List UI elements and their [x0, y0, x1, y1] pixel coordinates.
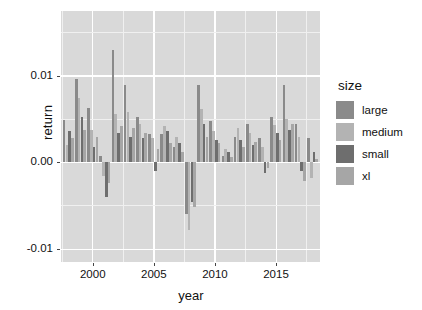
bar	[154, 162, 157, 171]
grid-line-horizontal-minor	[61, 205, 320, 206]
y-tick-label: 0.00	[5, 155, 53, 167]
bar	[279, 140, 282, 163]
x-tick-mark	[93, 263, 94, 266]
bar	[120, 126, 123, 162]
legend-title: size	[338, 78, 420, 93]
y-tick-label: 0.01	[5, 69, 53, 81]
bar	[310, 162, 313, 178]
legend-item-small[interactable]: small	[336, 143, 420, 164]
bar	[267, 162, 270, 167]
legend-item-large[interactable]: large	[336, 99, 420, 120]
grid-line-horizontal	[61, 249, 320, 250]
grid-line-vertical	[153, 11, 154, 262]
x-tick-mark	[154, 263, 155, 266]
bar	[169, 143, 172, 162]
grid-line-vertical-minor	[306, 11, 307, 262]
bar	[307, 138, 310, 162]
bar	[83, 130, 86, 163]
x-tick-mark	[215, 263, 216, 266]
bar	[71, 138, 74, 162]
legend-label: small	[362, 148, 389, 160]
legend: size largemediumsmallxl	[336, 78, 420, 187]
bar	[132, 128, 135, 163]
bar	[193, 162, 196, 207]
y-tick-label: -0.01	[5, 242, 53, 254]
grid-line-horizontal-minor	[61, 32, 320, 33]
bar	[291, 124, 294, 162]
bar	[96, 137, 99, 163]
bar	[315, 159, 318, 162]
chart-root: return -0.010.000.01 2000200520102015 ye…	[0, 0, 422, 310]
legend-item-xl[interactable]: xl	[336, 165, 420, 186]
legend-label: xl	[362, 170, 370, 182]
plot-panel	[61, 11, 320, 262]
bar	[303, 162, 306, 181]
bar	[218, 143, 221, 162]
bar	[99, 156, 102, 163]
x-axis-title: year	[61, 288, 321, 303]
bar	[181, 152, 184, 162]
bar	[157, 149, 160, 163]
legend-swatch-medium	[336, 123, 354, 141]
legend-label: medium	[362, 126, 403, 138]
legend-swatch-small	[336, 145, 354, 163]
bar	[261, 147, 264, 163]
x-tick-label: 2015	[256, 268, 296, 280]
y-tick-mark	[57, 162, 60, 163]
legend-label: large	[362, 104, 388, 116]
legend-swatch-large	[336, 101, 354, 119]
x-tick-label: 2000	[73, 268, 113, 280]
y-tick-mark	[57, 76, 60, 77]
bar	[144, 133, 147, 162]
bar	[242, 147, 245, 163]
grid-line-horizontal	[61, 75, 320, 76]
bar	[108, 162, 111, 183]
legend-item-medium[interactable]: medium	[336, 121, 420, 142]
x-tick-label: 2005	[134, 268, 174, 280]
bar	[254, 142, 257, 163]
grid-line-horizontal-minor	[61, 119, 320, 120]
y-tick-mark	[57, 249, 60, 250]
legend-entries: largemediumsmallxl	[336, 99, 420, 186]
bar	[230, 157, 233, 162]
grid-line-vertical-minor	[184, 11, 185, 262]
bar	[298, 137, 301, 163]
bar	[151, 138, 154, 162]
legend-swatch-xl	[336, 167, 354, 185]
bar	[206, 137, 209, 163]
x-tick-label: 2010	[195, 268, 235, 280]
x-tick-mark	[276, 263, 277, 266]
y-axis-title: return	[40, 78, 55, 168]
